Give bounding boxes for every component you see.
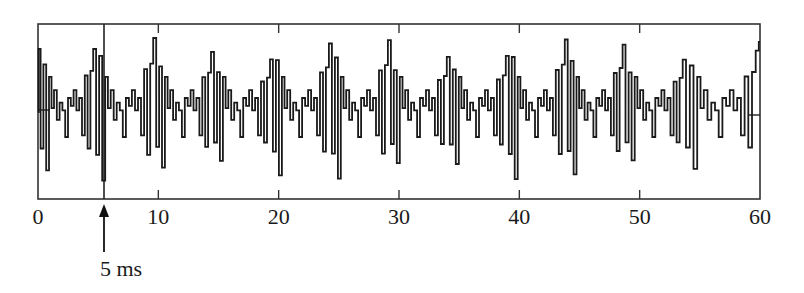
x-tick-label: 0 bbox=[33, 206, 44, 228]
x-tick-label: 10 bbox=[147, 206, 169, 228]
x-tick-label: 50 bbox=[629, 206, 651, 228]
waveform-chart bbox=[0, 0, 804, 293]
x-tick-label: 30 bbox=[388, 206, 410, 228]
five-ms-annotation-label: 5 ms bbox=[100, 258, 142, 280]
x-tick-label: 60 bbox=[749, 206, 771, 228]
x-tick-label: 20 bbox=[268, 206, 290, 228]
x-tick-label: 40 bbox=[508, 206, 530, 228]
waveform-line bbox=[38, 38, 760, 181]
arrow-icon bbox=[99, 204, 109, 252]
